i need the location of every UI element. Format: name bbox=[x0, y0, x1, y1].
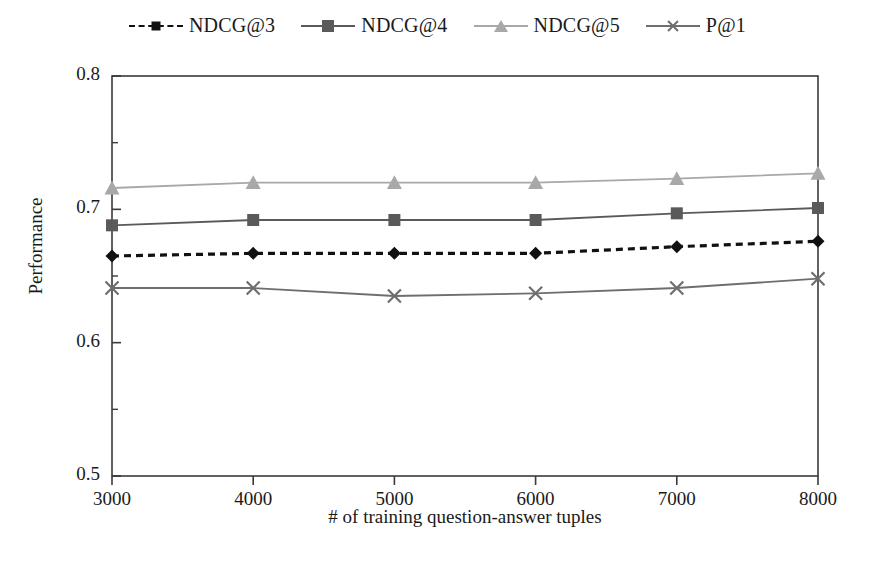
square-marker-icon bbox=[106, 219, 118, 231]
diamond-marker-icon bbox=[106, 250, 119, 263]
x-axis-tick-label: 6000 bbox=[496, 488, 576, 510]
square-marker-icon bbox=[812, 202, 824, 214]
y-axis-tick-label: 0.5 bbox=[40, 463, 100, 485]
x-axis-tick-label: 8000 bbox=[778, 488, 858, 510]
plot-svg bbox=[0, 0, 875, 562]
chart-figure: NDCG@3 NDCG@4 NDCG@5 P@1 Pe bbox=[0, 0, 875, 562]
diamond-marker-icon bbox=[670, 240, 683, 253]
y-axis-tick-label: 0.7 bbox=[40, 196, 100, 218]
square-marker-icon bbox=[247, 214, 259, 226]
series-line-ndcg4 bbox=[112, 208, 818, 225]
series-line-p1 bbox=[112, 279, 818, 296]
x-axis-tick-label: 5000 bbox=[354, 488, 434, 510]
series-line-ndcg3 bbox=[112, 241, 818, 256]
x-axis-tick-label: 7000 bbox=[637, 488, 717, 510]
y-axis-tick-label: 0.6 bbox=[40, 330, 100, 352]
square-marker-icon bbox=[530, 214, 542, 226]
diamond-marker-icon bbox=[247, 247, 260, 260]
y-axis-title: Performance bbox=[25, 166, 47, 326]
square-marker-icon bbox=[388, 214, 400, 226]
x-axis-tick-label: 3000 bbox=[72, 488, 152, 510]
diamond-marker-icon bbox=[388, 247, 401, 260]
square-marker-icon bbox=[671, 207, 683, 219]
y-axis-tick-label: 0.8 bbox=[40, 63, 100, 85]
diamond-marker-icon bbox=[812, 235, 825, 248]
plot-frame bbox=[112, 76, 818, 476]
plot-area: Performance # of training question-answe… bbox=[0, 0, 875, 562]
diamond-marker-icon bbox=[529, 247, 542, 260]
series-line-ndcg5 bbox=[112, 173, 818, 188]
x-axis-tick-label: 4000 bbox=[213, 488, 293, 510]
